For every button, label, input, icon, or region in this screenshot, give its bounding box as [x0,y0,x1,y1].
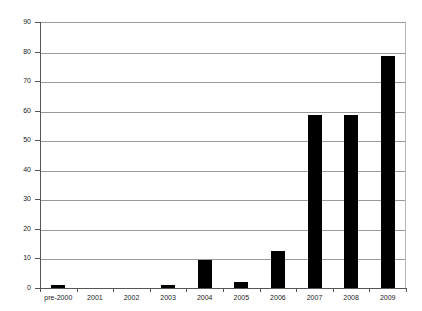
y-axis-tick [35,229,40,230]
y-axis-tick-label: 90 [0,18,31,25]
x-axis-tick [369,288,370,292]
gridline [40,53,405,54]
x-axis-tick [40,288,41,292]
y-axis-tick [35,199,40,200]
y-axis-tick-label: 50 [0,136,31,143]
x-axis-tick-label: 2007 [307,294,323,301]
y-axis-tick [35,170,40,171]
y-axis-tick-label: 20 [0,225,31,232]
x-axis-tick [296,288,297,292]
y-axis-tick [35,111,40,112]
x-axis-tick [333,288,334,292]
y-axis-tick-label: 0 [0,284,31,291]
x-axis-tick-label: 2003 [160,294,176,301]
y-axis-tick [35,81,40,82]
y-axis-tick-label: 60 [0,107,31,114]
x-axis-tick-label: pre-2000 [44,294,72,301]
y-axis-tick [35,258,40,259]
y-axis-tick-label: 80 [0,48,31,55]
x-axis-tick-label: 2006 [270,294,286,301]
x-axis-tick-label: 2001 [87,294,103,301]
bar [271,251,285,288]
y-axis-tick [35,22,40,23]
x-axis-tick [77,288,78,292]
y-axis-tick-label: 40 [0,166,31,173]
x-axis-tick [406,288,407,292]
gridline [40,112,405,113]
gridline [40,82,405,83]
y-axis-tick-label: 30 [0,195,31,202]
x-axis-tick-label: 2008 [343,294,359,301]
x-axis-tick-label: 2005 [234,294,250,301]
x-axis-tick [150,288,151,292]
x-axis-tick [260,288,261,292]
x-axis-tick [113,288,114,292]
bar [308,115,322,288]
bar [344,115,358,288]
plot-area [40,22,406,288]
bar-chart: 0102030405060708090 pre-2000200120022003… [0,0,422,311]
y-axis-tick [35,140,40,141]
x-axis-tick-label: 2009 [380,294,396,301]
x-axis-tick [223,288,224,292]
x-axis-tick-label: 2004 [197,294,213,301]
bar [198,260,212,288]
y-axis-tick-label: 70 [0,77,31,84]
y-axis-line [40,22,41,289]
y-axis-tick-label: 10 [0,254,31,261]
x-axis-tick-label: 2002 [124,294,140,301]
bar [381,56,395,288]
y-axis-tick [35,52,40,53]
x-axis-tick [186,288,187,292]
